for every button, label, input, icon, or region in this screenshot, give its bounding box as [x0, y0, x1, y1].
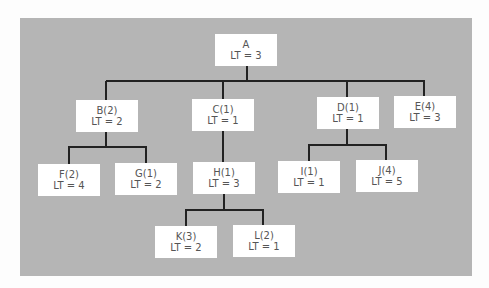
node-a: A LT = 3	[215, 34, 277, 66]
node-f-lt: LT = 4	[38, 180, 100, 191]
node-g: G(1) LT = 2	[115, 163, 177, 195]
node-c-lt: LT = 1	[192, 115, 254, 126]
node-g-lt: LT = 2	[115, 179, 177, 190]
node-h: H(1) LT = 3	[193, 162, 255, 194]
node-a-name: A	[215, 39, 277, 50]
node-h-lt: LT = 3	[193, 178, 255, 189]
node-d: D(1) LT = 1	[317, 97, 379, 129]
node-l-name: L(2)	[233, 230, 295, 241]
node-l-lt: LT = 1	[233, 241, 295, 252]
node-e-lt: LT = 3	[394, 112, 456, 123]
node-g-name: G(1)	[115, 168, 177, 179]
node-j-name: J(4)	[356, 165, 418, 176]
node-c: C(1) LT = 1	[192, 99, 254, 131]
node-a-lt: LT = 3	[215, 50, 277, 61]
node-j-lt: LT = 5	[356, 176, 418, 187]
node-h-name: H(1)	[193, 167, 255, 178]
node-j: J(4) LT = 5	[356, 160, 418, 192]
node-e: E(4) LT = 3	[394, 96, 456, 128]
node-k: K(3) LT = 2	[155, 226, 217, 258]
node-i-name: I(1)	[278, 166, 340, 177]
node-f: F(2) LT = 4	[38, 164, 100, 196]
node-i: I(1) LT = 1	[278, 161, 340, 193]
node-d-lt: LT = 1	[317, 113, 379, 124]
node-b-lt: LT = 2	[76, 116, 138, 127]
node-b: B(2) LT = 2	[76, 100, 138, 132]
node-e-name: E(4)	[394, 101, 456, 112]
node-l: L(2) LT = 1	[233, 225, 295, 257]
node-k-lt: LT = 2	[155, 242, 217, 253]
node-d-name: D(1)	[317, 102, 379, 113]
node-b-name: B(2)	[76, 105, 138, 116]
node-c-name: C(1)	[192, 104, 254, 115]
node-f-name: F(2)	[38, 169, 100, 180]
node-k-name: K(3)	[155, 231, 217, 242]
node-i-lt: LT = 1	[278, 177, 340, 188]
